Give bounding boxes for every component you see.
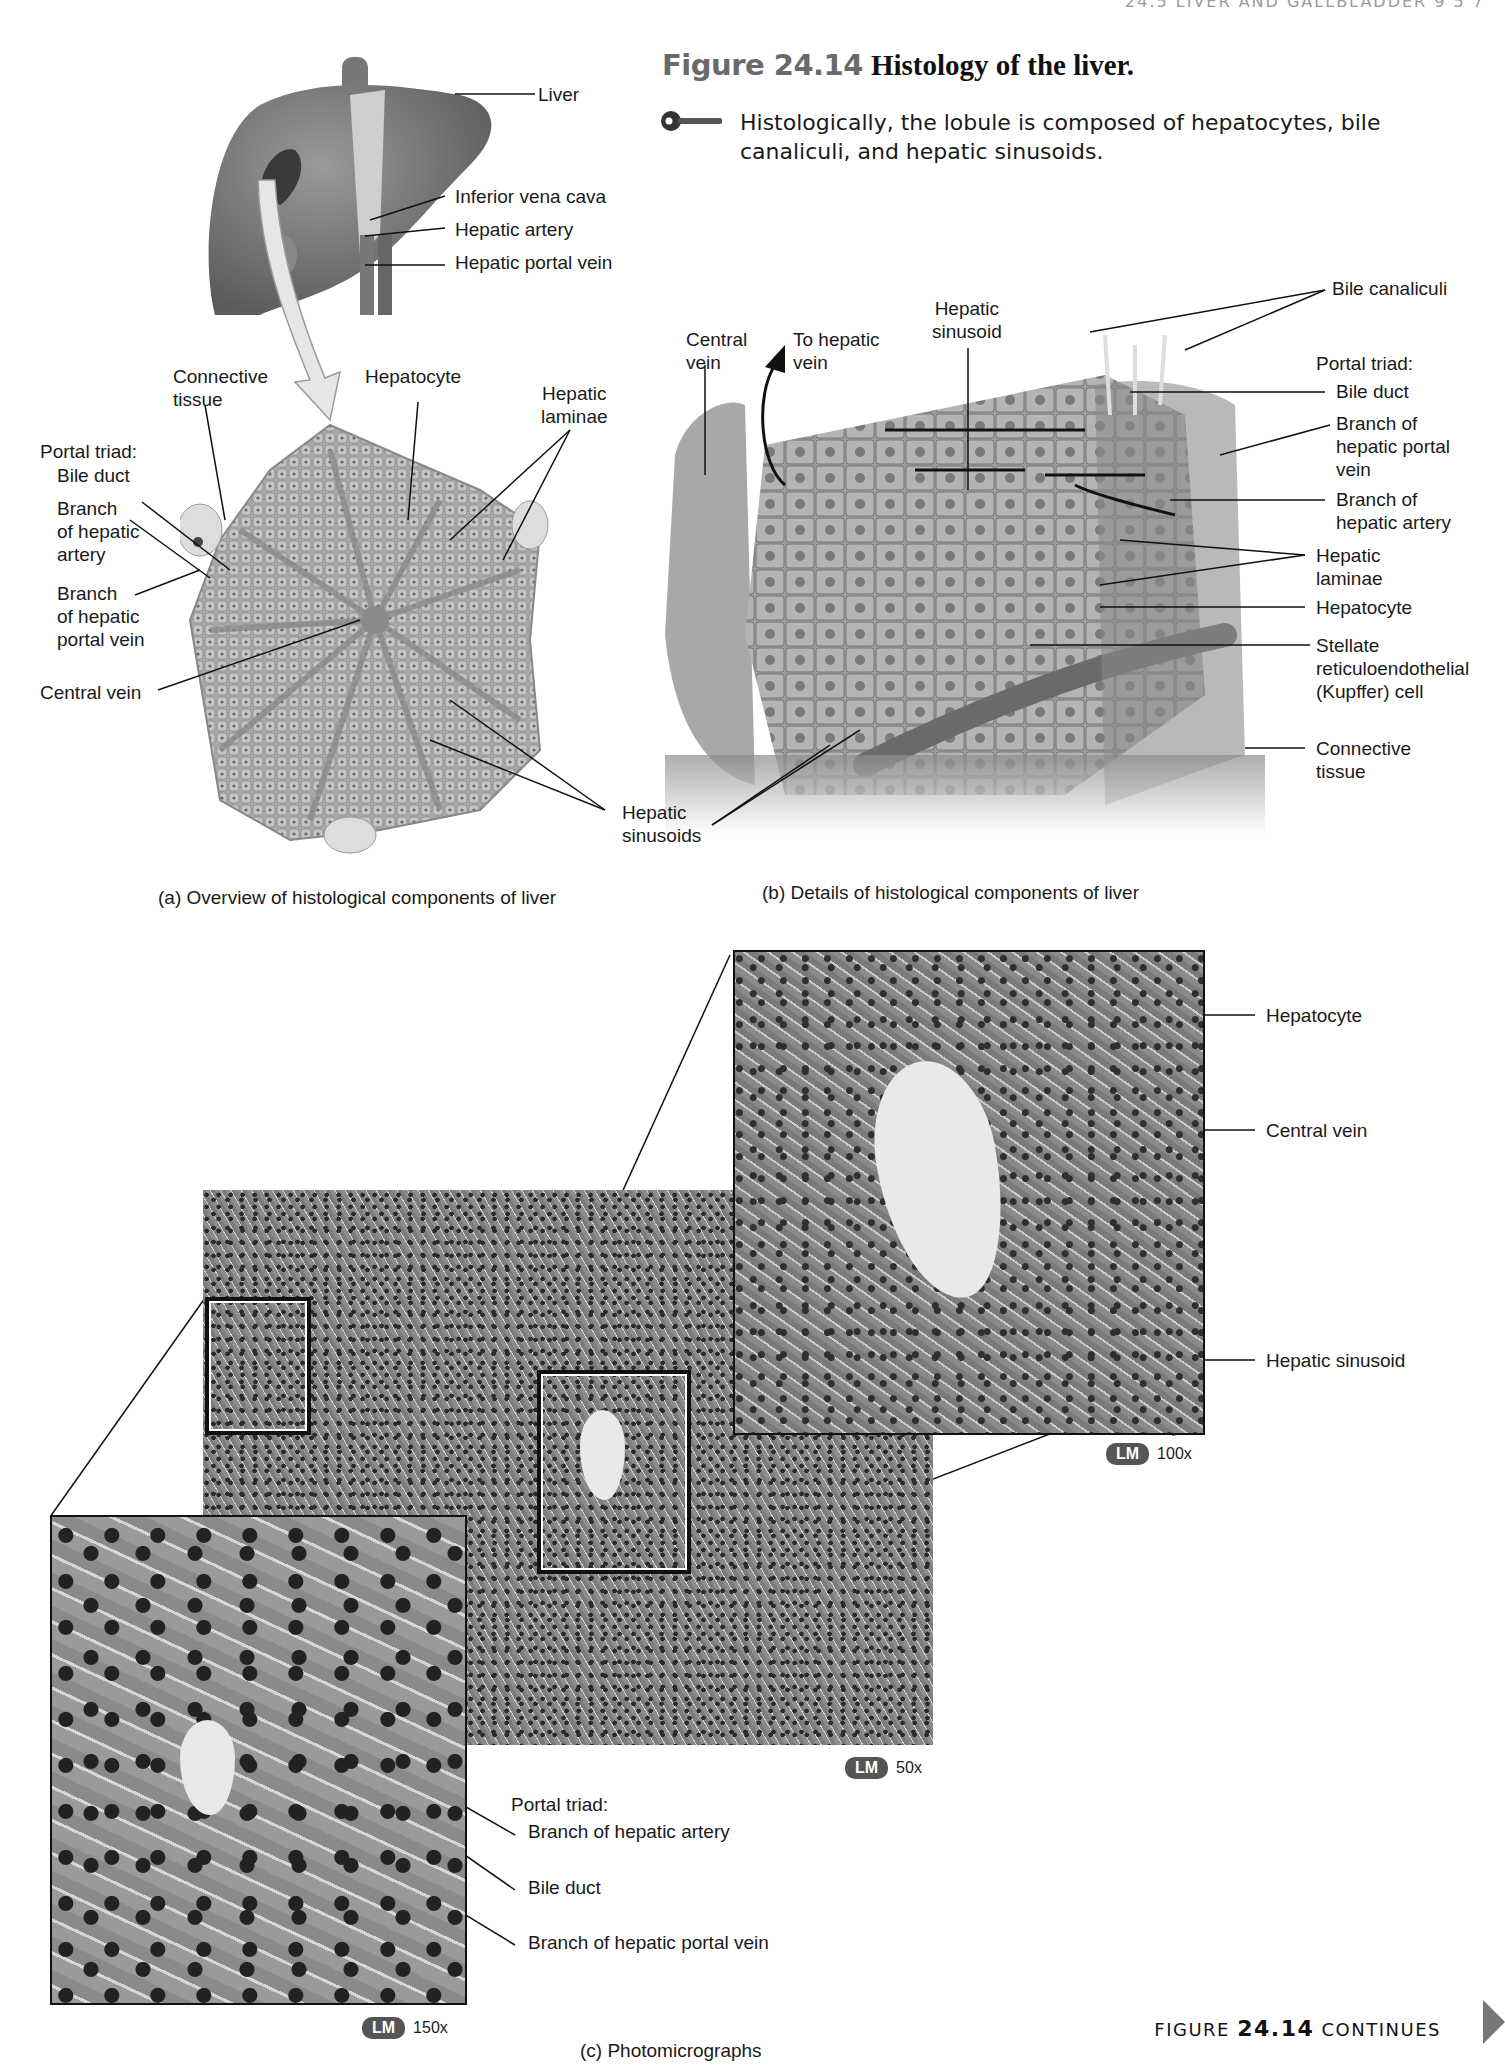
label-branch-hepatic-portal-vein-c: Branch of hepatic portal vein <box>528 1931 769 1954</box>
label-hepatic-artery: Hepatic artery <box>455 218 573 241</box>
label-hepatic-laminae-a: Hepatic laminae <box>541 382 608 428</box>
label-branch-hepatic-portal-vein-b: Branch of hepatic portal vein <box>1336 412 1450 481</box>
caption-panel-b: (b) Details of histological components o… <box>762 882 1139 904</box>
label-hepatic-laminae-b: Hepatic laminae <box>1316 544 1383 590</box>
lm-badge-100x: LM 100x <box>1106 1443 1192 1465</box>
figure-number: Figure 24.14 <box>662 48 863 82</box>
label-hepatocyte-c: Hepatocyte <box>1266 1004 1362 1027</box>
label-branch-hepatic-artery-c: Branch of hepatic artery <box>528 1820 730 1843</box>
label-hepatic-sinusoids: Hepatic sinusoids <box>622 801 701 847</box>
label-portal-triad-c: Portal triad: <box>511 1793 608 1816</box>
liver-lobule-illustration <box>180 420 560 860</box>
label-branch-hepatic-artery-b: Branch of hepatic artery <box>1336 488 1451 534</box>
running-head: 24.5 LIVER AND GALLBLADDER 9 5 7 <box>1125 0 1485 11</box>
caption-panel-c: (c) Photomicrographs <box>580 2040 762 2062</box>
label-hepatic-sinusoid-c: Hepatic sinusoid <box>1266 1349 1405 1372</box>
next-page-arrow-icon[interactable] <box>1483 2000 1505 2044</box>
label-bile-canaliculi: Bile canaliculi <box>1332 277 1447 300</box>
label-hepatocyte-b: Hepatocyte <box>1316 596 1412 619</box>
label-bile-duct-c: Bile duct <box>528 1876 601 1899</box>
label-portal-triad-b: Portal triad: <box>1316 352 1413 375</box>
figure-title: Figure 24.14Histology of the liver. <box>662 48 1134 82</box>
lm-badge-50x: LM 50x <box>845 1757 922 1779</box>
label-bile-duct-a: Bile duct <box>57 464 130 487</box>
inset-box-portal-triad <box>205 1297 311 1435</box>
label-hepatocyte-a: Hepatocyte <box>365 365 461 388</box>
label-inferior-vena-cava: Inferior vena cava <box>455 185 606 208</box>
caption-panel-a: (a) Overview of histological components … <box>158 887 556 909</box>
figure-name: Histology of the liver. <box>871 49 1134 81</box>
figure-continues-note: FIGURE 24.14 CONTINUES <box>1154 2016 1441 2041</box>
label-connective-tissue-a: Connective tissue <box>173 365 268 411</box>
label-hepatic-portal-vein: Hepatic portal vein <box>455 251 612 274</box>
label-central-vein-a: Central vein <box>40 681 141 704</box>
lm-badge-150x: LM 150x <box>362 2017 448 2039</box>
label-portal-triad-a: Portal triad: <box>40 440 137 463</box>
liver-detail-illustration <box>665 335 1265 835</box>
label-connective-tissue-b: Connective tissue <box>1316 737 1411 783</box>
key-icon <box>660 110 726 132</box>
label-to-hepatic-vein: To hepatic vein <box>793 328 880 374</box>
label-branch-hepatic-portal-vein-a: Branch of hepatic portal vein <box>57 582 145 651</box>
key-concept-caption: Histologically, the lobule is composed o… <box>740 108 1480 166</box>
label-bile-duct-b: Bile duct <box>1336 380 1409 403</box>
label-branch-hepatic-artery-a: Branch of hepatic artery <box>57 497 139 566</box>
label-central-vein-b: Central vein <box>686 328 747 374</box>
label-hepatic-sinusoid-b: Hepatic sinusoid <box>932 297 1002 343</box>
label-kupffer-cell: Stellate reticuloendothelial (Kupffer) c… <box>1316 634 1469 703</box>
label-central-vein-c: Central vein <box>1266 1119 1367 1142</box>
label-liver: Liver <box>538 83 579 106</box>
micrograph-150x <box>50 1515 467 2005</box>
